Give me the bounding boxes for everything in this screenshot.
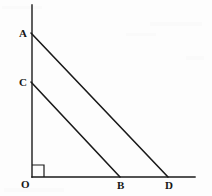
point-label-a: A — [19, 28, 27, 39]
point-label-c: C — [19, 77, 27, 88]
point-label-b: B — [117, 180, 124, 191]
point-label-d: D — [165, 180, 173, 191]
geometry-figure: A C O B D — [0, 0, 212, 196]
point-label-o: O — [21, 179, 30, 190]
figure-canvas — [0, 0, 212, 196]
segment-c-b — [31, 82, 120, 177]
right-angle-marker — [32, 165, 44, 177]
